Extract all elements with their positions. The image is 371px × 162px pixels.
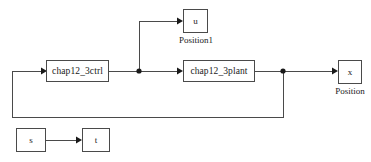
block-chap12-3ctrl-label: chap12_3ctrl <box>52 66 103 76</box>
block-scope-u-label: u <box>193 16 198 26</box>
block-sink-t[interactable]: t <box>82 128 110 152</box>
block-sink-t-label: t <box>95 135 98 145</box>
block-diagram-canvas: chap12_3ctrl chap12_3plant u x s t Posit… <box>0 0 371 162</box>
wire-branch-to-scope-u <box>139 21 177 71</box>
block-chap12-3ctrl[interactable]: chap12_3ctrl <box>46 60 109 82</box>
block-scope-x[interactable]: x <box>338 60 362 84</box>
caption-position-text: Position <box>335 86 365 96</box>
junction-u-branch <box>136 68 141 73</box>
junction-x-feedback <box>280 68 285 73</box>
caption-position1: Position1 <box>152 35 240 45</box>
block-scope-u[interactable]: u <box>183 9 208 33</box>
block-chap12-3plant-label: chap12_3plant <box>190 66 247 76</box>
caption-position1-text: Position1 <box>179 35 213 45</box>
block-source-s[interactable]: s <box>16 128 46 152</box>
block-source-s-label: s <box>29 135 33 145</box>
block-chap12-3plant[interactable]: chap12_3plant <box>183 60 255 82</box>
block-scope-x-label: x <box>348 67 353 77</box>
caption-position: Position <box>316 86 371 96</box>
